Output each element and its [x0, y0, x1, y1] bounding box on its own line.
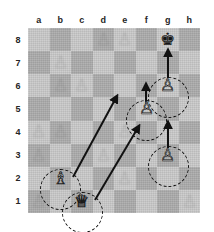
square-e6[interactable] [114, 74, 136, 97]
square-g7[interactable] [157, 51, 179, 74]
piece-pawn-b7: ♙ [50, 51, 72, 74]
file-label-d: d [97, 14, 109, 26]
square-b8[interactable] [50, 28, 72, 51]
square-b3[interactable] [50, 144, 72, 167]
square-d4[interactable] [93, 121, 115, 144]
square-d7[interactable] [93, 51, 115, 74]
piece-pawn-d3: ♙ [93, 144, 115, 167]
piece-pawn-c6: ♙ [71, 74, 93, 97]
rank-label-5: 5 [12, 103, 24, 115]
file-label-a: a [33, 14, 45, 26]
square-c4[interactable] [71, 121, 93, 144]
piece-pawn-h1: ♙ [179, 190, 201, 213]
rank-label-6: 6 [12, 80, 24, 92]
square-a7[interactable] [28, 51, 50, 74]
rank-label-3: 3 [12, 149, 24, 161]
rank-label-7: 7 [12, 57, 24, 69]
piece-pawn-d8: ♙ [93, 28, 115, 51]
square-d2[interactable] [93, 167, 115, 190]
chess-diagram: abcdefgh 87654321 ♚♙♙♙♗♕♙♙♙♙♙♙♙♙♙♙♙♙♙ [0, 0, 214, 232]
square-c8[interactable] [71, 28, 93, 51]
square-f7[interactable] [136, 51, 158, 74]
square-b5[interactable] [50, 97, 72, 120]
piece-pawn-g3[interactable]: ♙ [157, 144, 179, 167]
square-e7[interactable] [114, 51, 136, 74]
file-label-g: g [162, 14, 174, 26]
piece-pawn-e2: ♙ [114, 167, 136, 190]
file-label-e: e [119, 14, 131, 26]
square-g1[interactable] [157, 190, 179, 213]
file-label-h: h [183, 14, 195, 26]
piece-pawn-a4: ♙ [28, 120, 50, 143]
square-a6[interactable] [28, 74, 50, 97]
piece-pawn-g6[interactable]: ♙ [157, 74, 179, 97]
piece-pawn-e4: ♙ [114, 120, 136, 143]
square-e3[interactable] [114, 144, 136, 167]
square-d6[interactable] [93, 74, 115, 97]
rank-label-8: 8 [12, 34, 24, 46]
square-a5[interactable] [28, 97, 50, 120]
square-e1[interactable] [114, 190, 136, 213]
piece-pawn-e8: ♙ [114, 28, 136, 51]
piece-bishop-b2[interactable]: ♗ [50, 167, 72, 190]
piece-pawn-f5[interactable]: ♙ [136, 97, 158, 120]
square-h8[interactable] [179, 28, 201, 51]
square-a8[interactable] [28, 28, 50, 51]
piece-queen-c1[interactable]: ♕ [71, 190, 93, 213]
square-c7[interactable] [71, 51, 93, 74]
rank-label-2: 2 [12, 172, 24, 184]
piece-pawn-b6: ♙ [50, 74, 72, 97]
square-c3[interactable] [71, 144, 93, 167]
square-h4[interactable] [179, 121, 201, 144]
rank-label-1: 1 [12, 195, 24, 207]
file-label-b: b [54, 14, 66, 26]
file-label-f: f [140, 14, 152, 26]
square-d5[interactable] [93, 97, 115, 120]
square-f8[interactable] [136, 28, 158, 51]
square-f1[interactable] [136, 190, 158, 213]
rank-label-4: 4 [12, 126, 24, 138]
square-h7[interactable] [179, 51, 201, 74]
piece-pawn-a1: ♙ [28, 190, 50, 213]
piece-pawn-a3: ♙ [28, 144, 50, 167]
file-label-c: c [76, 14, 88, 26]
piece-king-g8[interactable]: ♚ [157, 28, 179, 51]
piece-pawn-b4: ♙ [50, 120, 72, 143]
square-c5[interactable] [71, 97, 93, 120]
